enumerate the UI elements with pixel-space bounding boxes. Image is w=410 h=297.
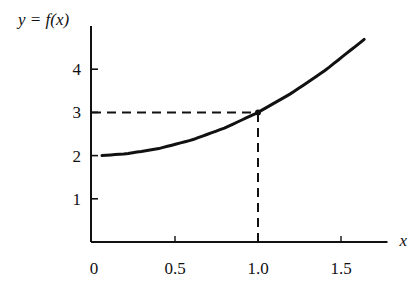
x-axis-title: x (398, 231, 407, 250)
x-tick-label: 0 (90, 259, 99, 278)
y-tick-label: 1 (73, 190, 82, 209)
dashed-guides (92, 109, 261, 242)
function-curve (102, 39, 364, 155)
y-tick-label: 3 (73, 103, 82, 122)
axes (91, 26, 387, 242)
x-tick-label: 0.5 (164, 259, 185, 278)
y-axis-title: y = f(x) (16, 10, 69, 29)
chart: 123400.51.01.5y = f(x)x (0, 0, 410, 297)
y-tick-label: 4 (73, 60, 82, 79)
x-tick-label: 1.0 (247, 259, 268, 278)
x-tick-label: 1.5 (330, 259, 351, 278)
y-tick-label: 2 (73, 147, 82, 166)
curve-path (102, 39, 364, 155)
